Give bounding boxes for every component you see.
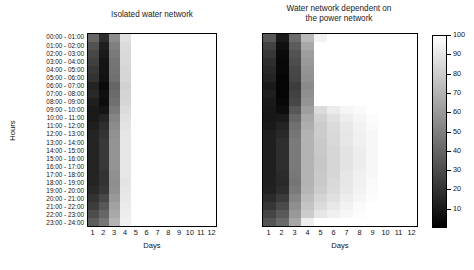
heatmap-cell bbox=[99, 90, 110, 98]
heatmap-cell bbox=[404, 58, 417, 66]
heatmap-cell bbox=[366, 138, 379, 146]
heatmap-cell bbox=[378, 90, 391, 98]
heatmap-cell bbox=[99, 194, 110, 202]
heatmap-cell bbox=[131, 90, 142, 98]
heatmap-cell bbox=[353, 170, 366, 178]
heatmap-cell bbox=[109, 82, 120, 90]
heatmap-cell bbox=[152, 170, 163, 178]
heatmap-cell bbox=[99, 82, 110, 90]
heatmap-cell bbox=[152, 34, 163, 42]
colorbar-tick-mark bbox=[447, 35, 451, 36]
heatmap-cell bbox=[184, 202, 195, 210]
heatmap-cell bbox=[340, 146, 353, 154]
heatmap-cell bbox=[404, 130, 417, 138]
heatmap-cell bbox=[88, 138, 99, 146]
panel2-title: Water network dependent on the power net… bbox=[258, 4, 420, 23]
heatmap-cell bbox=[205, 210, 216, 218]
heatmap-cell bbox=[353, 42, 366, 50]
heatmap-cell bbox=[205, 34, 216, 42]
heatmap-cell bbox=[120, 42, 131, 50]
heatmap-cell bbox=[109, 74, 120, 82]
heatmap-cell bbox=[173, 34, 184, 42]
heatmap-cell bbox=[289, 90, 302, 98]
heatmap-cell bbox=[404, 122, 417, 130]
heatmap-cell bbox=[301, 74, 314, 82]
heatmap-cell bbox=[378, 146, 391, 154]
heatmap-cell bbox=[184, 90, 195, 98]
heatmap-cell bbox=[378, 154, 391, 162]
heatmap-cell bbox=[263, 106, 276, 114]
heatmap-cell bbox=[391, 138, 404, 146]
heatmap-cell bbox=[163, 82, 174, 90]
heatmap-cell bbox=[120, 202, 131, 210]
heatmap-cell bbox=[289, 210, 302, 218]
heatmap-cell bbox=[404, 114, 417, 122]
colorbar-tick-mark bbox=[447, 54, 451, 55]
panel1-heatmap[interactable] bbox=[87, 33, 217, 227]
heatmap-cell bbox=[391, 106, 404, 114]
heatmap-cell bbox=[88, 58, 99, 66]
heatmap-cell bbox=[131, 178, 142, 186]
colorbar-tick-label: 60 bbox=[453, 108, 461, 116]
hour-tick-label: 09:00 - 10:00 bbox=[10, 106, 84, 113]
heatmap-cell bbox=[314, 106, 327, 114]
heatmap-cell bbox=[353, 58, 366, 66]
heatmap-cell bbox=[109, 34, 120, 42]
hour-tick-label: 16:00 - 17:00 bbox=[10, 163, 84, 170]
heatmap-cell bbox=[205, 50, 216, 58]
panel2-heatmap[interactable] bbox=[262, 33, 418, 227]
heatmap-cell bbox=[289, 186, 302, 194]
heatmap-cell bbox=[152, 42, 163, 50]
heatmap-cell bbox=[289, 202, 302, 210]
heatmap-cell bbox=[120, 162, 131, 170]
heatmap-cell bbox=[366, 162, 379, 170]
heatmap-cell bbox=[99, 210, 110, 218]
heatmap-cell bbox=[152, 74, 163, 82]
heatmap-cell bbox=[391, 42, 404, 50]
heatmap-cell bbox=[88, 218, 99, 226]
heatmap-cell bbox=[109, 130, 120, 138]
heatmap-cell bbox=[391, 34, 404, 42]
heatmap-cell bbox=[131, 146, 142, 154]
heatmap-cell bbox=[195, 114, 206, 122]
heatmap-cell bbox=[205, 122, 216, 130]
heatmap-cell bbox=[205, 194, 216, 202]
heatmap-cell bbox=[353, 50, 366, 58]
heatmap-cell bbox=[152, 98, 163, 106]
heatmap-cell bbox=[378, 162, 391, 170]
heatmap-cell bbox=[263, 58, 276, 66]
heatmap-cell bbox=[276, 130, 289, 138]
heatmap-cell bbox=[205, 106, 216, 114]
heatmap-cell bbox=[391, 114, 404, 122]
heatmap-cell bbox=[366, 130, 379, 138]
heatmap-cell bbox=[184, 186, 195, 194]
heatmap-cell bbox=[173, 138, 184, 146]
panel1-title: Isolated water network bbox=[87, 10, 217, 20]
heatmap-cell bbox=[99, 106, 110, 114]
hour-tick-label: 01:00 - 02:00 bbox=[10, 42, 84, 49]
heatmap-cell bbox=[301, 194, 314, 202]
heatmap-cell bbox=[276, 154, 289, 162]
heatmap-cell bbox=[340, 66, 353, 74]
heatmap-cell bbox=[263, 186, 276, 194]
heatmap-cell bbox=[99, 34, 110, 42]
heatmap-cell bbox=[195, 202, 206, 210]
heatmap-cell bbox=[263, 170, 276, 178]
heatmap-cell bbox=[276, 218, 289, 226]
heatmap-cell bbox=[205, 74, 216, 82]
heatmap-cell bbox=[163, 170, 174, 178]
heatmap-cell bbox=[163, 42, 174, 50]
heatmap-cell bbox=[184, 58, 195, 66]
heatmap-cell bbox=[366, 178, 379, 186]
heatmap-cell bbox=[120, 90, 131, 98]
heatmap-cell bbox=[289, 98, 302, 106]
colorbar[interactable] bbox=[432, 35, 447, 228]
heatmap-cell bbox=[263, 98, 276, 106]
heatmap-cell bbox=[131, 170, 142, 178]
colorbar-tick-mark bbox=[447, 209, 451, 210]
heatmap-cell bbox=[152, 66, 163, 74]
heatmap-cell bbox=[152, 178, 163, 186]
heatmap-cell bbox=[366, 146, 379, 154]
colorbar-tick-mark bbox=[447, 132, 451, 133]
heatmap-cell bbox=[340, 58, 353, 66]
